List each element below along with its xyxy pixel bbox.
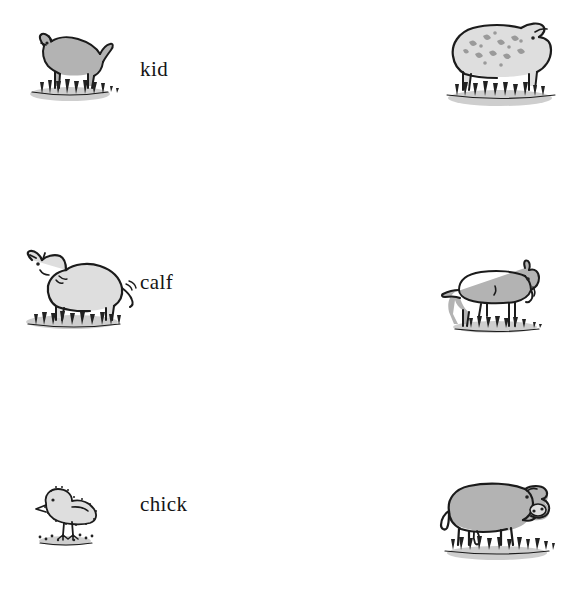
match-row: kid: [0, 0, 579, 112]
match-row: calf: [0, 112, 579, 225]
adult-animal-cell[interactable]: [425, 8, 575, 108]
animal-word: kid: [140, 57, 168, 81]
baby-animal-cell[interactable]: [10, 12, 150, 104]
worksheet-page: kid: [0, 0, 579, 601]
sheep-icon: [425, 8, 575, 108]
match-row: foal: [0, 337, 579, 450]
match-row: chick: [0, 225, 579, 337]
label-cell: kid: [140, 57, 260, 82]
match-row: lamb: [0, 450, 579, 563]
baby-goat-icon: [10, 12, 150, 104]
